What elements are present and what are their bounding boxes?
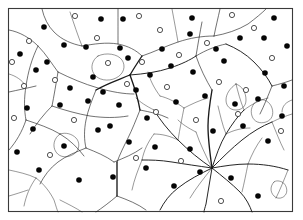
- open-marker: [72, 13, 77, 18]
- open-marker: [229, 12, 234, 17]
- filled-marker: [281, 83, 287, 89]
- filled-marker: [14, 149, 20, 155]
- open-marker: [164, 84, 169, 89]
- filled-marker: [67, 85, 73, 91]
- filled-marker: [232, 101, 238, 107]
- filled-marker: [83, 44, 89, 50]
- filled-marker: [107, 123, 113, 129]
- figure-border: [9, 9, 293, 212]
- filled-marker: [284, 43, 290, 49]
- filled-marker: [98, 16, 104, 22]
- filled-marker: [240, 123, 246, 129]
- filled-marker: [159, 46, 165, 52]
- filled-marker: [171, 183, 177, 189]
- filled-marker: [255, 193, 261, 199]
- filled-marker: [90, 74, 96, 80]
- open-marker: [47, 152, 52, 157]
- filled-marker: [173, 99, 179, 105]
- filled-marker: [126, 139, 132, 145]
- filled-marker: [61, 143, 67, 149]
- filled-marker: [190, 69, 196, 75]
- open-marker: [124, 81, 129, 86]
- filled-marker: [57, 102, 63, 108]
- open-marker: [26, 38, 31, 43]
- filled-marker: [95, 127, 101, 133]
- filled-marker: [143, 165, 149, 171]
- open-marker: [235, 111, 240, 116]
- filled-marker: [271, 15, 277, 21]
- open-marker: [251, 25, 256, 30]
- filled-marker: [41, 24, 47, 30]
- open-marker: [11, 115, 16, 120]
- open-marker: [269, 55, 274, 60]
- filled-marker: [44, 59, 50, 65]
- open-marker: [52, 77, 57, 82]
- open-marker: [157, 27, 162, 32]
- filled-marker: [110, 174, 116, 180]
- open-marker: [278, 128, 283, 133]
- filled-marker: [100, 89, 106, 95]
- filled-marker: [36, 167, 42, 173]
- filled-marker: [213, 46, 219, 52]
- filled-marker: [187, 146, 193, 152]
- filled-marker: [189, 15, 195, 21]
- filled-marker: [210, 128, 216, 134]
- filled-marker: [76, 177, 82, 183]
- filled-marker: [261, 35, 267, 41]
- open-marker: [71, 117, 76, 122]
- open-marker: [218, 198, 223, 203]
- filled-marker: [120, 16, 126, 22]
- open-marker: [216, 79, 221, 84]
- open-marker: [94, 35, 99, 40]
- open-marker: [105, 60, 110, 65]
- open-marker: [204, 40, 209, 45]
- filled-marker: [117, 45, 123, 51]
- filled-marker: [228, 175, 234, 181]
- open-marker: [21, 83, 26, 88]
- filled-marker: [202, 93, 208, 99]
- filled-marker: [144, 115, 150, 121]
- filled-marker: [197, 169, 203, 175]
- open-marker: [178, 158, 183, 163]
- filled-marker: [187, 31, 193, 37]
- filled-marker: [262, 70, 268, 76]
- filled-marker: [147, 72, 153, 78]
- filled-marker: [237, 35, 243, 41]
- filled-marker: [17, 51, 23, 57]
- filled-marker: [265, 138, 271, 144]
- open-marker: [243, 87, 248, 92]
- open-marker: [136, 13, 141, 18]
- figure-panel: [0, 0, 303, 220]
- filled-marker: [168, 63, 174, 69]
- filled-marker: [133, 87, 139, 93]
- open-marker: [139, 59, 144, 64]
- filled-marker: [279, 113, 285, 119]
- filled-marker: [255, 96, 261, 102]
- filled-marker: [116, 102, 122, 108]
- network-scatter-figure: [0, 0, 303, 220]
- filled-marker: [24, 105, 30, 111]
- open-marker: [133, 155, 138, 160]
- filled-marker: [125, 55, 131, 61]
- filled-marker: [30, 126, 36, 132]
- filled-marker: [85, 98, 91, 104]
- filled-marker: [33, 67, 39, 73]
- filled-marker: [221, 58, 227, 64]
- filled-marker: [61, 42, 67, 48]
- open-marker: [193, 117, 198, 122]
- open-marker: [153, 109, 158, 114]
- filled-marker: [152, 144, 158, 150]
- open-marker: [176, 52, 181, 57]
- open-marker: [9, 59, 14, 64]
